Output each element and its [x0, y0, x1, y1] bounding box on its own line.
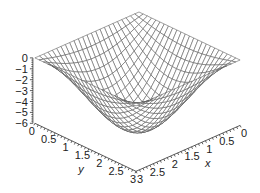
x-axis-label: x — [204, 157, 211, 169]
x-tick — [139, 170, 140, 172]
x-tick — [237, 127, 238, 129]
y-tick-label: 1.5 — [75, 149, 90, 161]
y-tick-label: 0 — [29, 125, 35, 137]
y-tick — [108, 159, 109, 161]
x-tick — [192, 147, 193, 149]
surface-plot: 0−1−2−3−4−5−600.511.522.5300.511.522.53 … — [0, 0, 260, 193]
y-tick — [61, 136, 62, 138]
y-tick — [71, 141, 72, 143]
y-tick — [81, 146, 82, 148]
x-tick-label: 1 — [206, 143, 212, 155]
y-tick-label: 2 — [96, 157, 102, 169]
x-tick — [164, 159, 165, 161]
z-tick-label: −6 — [15, 117, 28, 129]
x-tick — [160, 161, 161, 163]
y-tick — [64, 138, 65, 140]
x-tick — [143, 168, 144, 170]
y-tick — [128, 168, 129, 170]
y-tick — [44, 128, 45, 130]
x-tick — [174, 154, 175, 156]
x-tick-label: 0.5 — [219, 135, 234, 147]
y-tick-label: 3 — [130, 173, 136, 185]
surface-mesh — [35, 12, 240, 133]
x-tick — [212, 138, 213, 140]
x-tick-label: 1.5 — [184, 150, 199, 162]
y-tick — [115, 162, 116, 164]
x-tick-label: 0 — [241, 127, 247, 139]
y-tick — [105, 157, 106, 159]
y-tick — [47, 130, 48, 132]
x-tick — [167, 158, 168, 160]
x-tick — [226, 132, 227, 134]
y-tick — [98, 154, 99, 156]
x-tick — [157, 162, 158, 164]
x-tick — [233, 128, 234, 130]
x-tick-label: 3 — [137, 173, 143, 185]
x-tick — [178, 153, 179, 155]
y-tick-label: 0.5 — [41, 133, 56, 145]
y-tick — [111, 160, 112, 162]
x-tick — [198, 144, 199, 146]
x-tick — [216, 136, 217, 138]
x-tick — [202, 142, 203, 144]
y-axis-label: y — [77, 163, 85, 175]
x-tick — [209, 139, 210, 141]
x-tick — [181, 151, 182, 153]
x-tick — [195, 145, 196, 147]
y-tick — [132, 170, 133, 172]
y-tick — [74, 143, 75, 145]
y-tick — [57, 135, 58, 137]
y-tick-label: 2.5 — [108, 165, 123, 177]
y-tick — [41, 127, 42, 129]
x-tick-label: 2 — [172, 158, 178, 170]
y-tick — [95, 152, 96, 154]
y-tick — [125, 167, 126, 169]
y-tick — [78, 144, 79, 146]
y-tick — [91, 151, 92, 153]
x-tick-label: 2.5 — [150, 166, 165, 178]
x-tick — [146, 167, 147, 169]
x-tick — [230, 130, 231, 132]
y-tick — [37, 125, 38, 127]
y-tick-label: 1 — [63, 141, 69, 153]
